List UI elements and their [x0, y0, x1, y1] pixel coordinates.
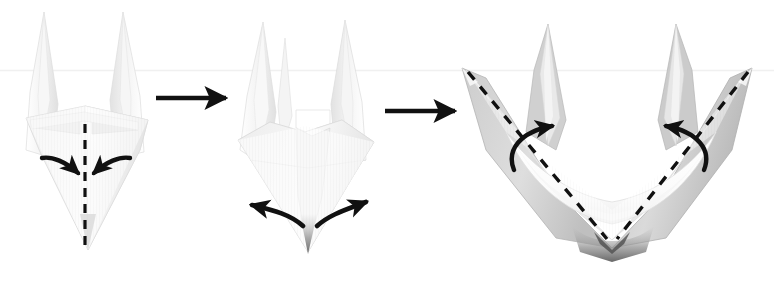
figure-canvas [0, 0, 774, 284]
origami-instruction-figure: Origami folding sequence — three steps [0, 0, 774, 284]
